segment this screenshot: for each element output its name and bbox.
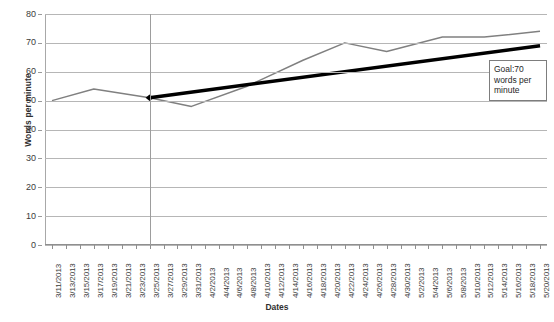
x-tick-label: 3/31/2013 — [195, 263, 203, 298]
x-tick-label: 4/8/2013 — [250, 268, 258, 298]
x-tick-label: 3/13/2013 — [69, 263, 77, 298]
gridline — [45, 101, 547, 102]
y-tick-mark — [38, 130, 42, 131]
y-tick-mark — [38, 245, 42, 246]
gridline — [45, 72, 547, 73]
y-tick-mark — [38, 158, 42, 159]
x-tick-label: 4/24/2013 — [362, 263, 370, 298]
x-tick-label: 4/18/2013 — [320, 263, 328, 298]
words-per-minute-line-chart: Words per minute 01020304050607080 3/11/… — [0, 0, 554, 322]
x-tick-label: 4/12/2013 — [278, 263, 286, 298]
x-tick-label: 3/17/2013 — [97, 263, 105, 298]
x-tick-label: 4/30/2013 — [404, 263, 412, 298]
gridline — [45, 14, 547, 15]
x-axis-tick-labels: 3/11/20133/13/20133/15/20133/17/20133/19… — [45, 249, 547, 301]
y-tick-label: 40 — [26, 125, 36, 134]
y-tick-label: 30 — [26, 154, 36, 163]
y-tick-label: 80 — [26, 10, 36, 19]
y-tick-label: 50 — [26, 96, 36, 105]
y-tick-mark — [38, 14, 42, 15]
x-tick-label: 4/14/2013 — [292, 263, 300, 298]
x-tick-label: 5/14/2013 — [501, 263, 509, 298]
y-tick-label: 0 — [31, 241, 36, 250]
x-tick-label: 3/15/2013 — [83, 263, 91, 298]
y-tick-mark — [38, 216, 42, 217]
gridline — [45, 216, 547, 217]
x-tick-label: 3/29/2013 — [181, 263, 189, 298]
x-tick-label: 3/19/2013 — [111, 263, 119, 298]
y-tick-mark — [38, 101, 42, 102]
x-tick-label: 5/4/2013 — [432, 268, 440, 298]
x-tick-label: 4/26/2013 — [376, 263, 384, 298]
x-tick-label: 4/20/2013 — [334, 263, 342, 298]
plot-area — [45, 14, 547, 245]
x-tick-label: 3/21/2013 — [125, 263, 133, 298]
x-tick-label: 5/6/2013 — [446, 268, 454, 298]
vertical-reference-line — [150, 14, 151, 245]
x-tick-label: 3/11/2013 — [55, 264, 63, 298]
y-tick-mark — [38, 72, 42, 73]
x-tick-label: 3/27/2013 — [167, 263, 175, 298]
y-tick-mark — [38, 187, 42, 188]
y-tick-label: 60 — [26, 67, 36, 76]
x-tick-label: 4/16/2013 — [306, 263, 314, 298]
gridline — [45, 187, 547, 188]
x-tick-label: 3/23/2013 — [139, 263, 147, 298]
y-tick-label: 10 — [26, 212, 36, 221]
goal-annotation-line-1: Goal:70 — [494, 64, 542, 75]
gridline — [45, 130, 547, 131]
x-tick-label: 5/18/2013 — [529, 263, 537, 298]
x-tick-label: 3/25/2013 — [153, 263, 161, 298]
goal-annotation-box: Goal:70 words per minute — [489, 60, 547, 101]
x-tick-label: 5/16/2013 — [515, 263, 523, 298]
x-tick-label: 5/2/2013 — [418, 268, 426, 298]
x-tick-label: 5/12/2013 — [487, 263, 495, 298]
goal-annotation-line-2: words per — [494, 75, 542, 86]
gridline — [45, 43, 547, 44]
x-tick-label: 5/10/2013 — [474, 263, 482, 298]
x-tick-label: 4/10/2013 — [264, 263, 272, 298]
y-tick-label: 70 — [26, 38, 36, 47]
y-tick-label: 20 — [26, 183, 36, 192]
x-axis-title: Dates — [0, 302, 554, 312]
gridline — [45, 158, 547, 159]
y-axis-tick-labels: 01020304050607080 — [0, 0, 42, 322]
x-tick-label: 4/4/2013 — [223, 268, 231, 298]
x-tick-label: 4/6/2013 — [236, 268, 244, 298]
x-tick-label: 5/8/2013 — [460, 268, 468, 298]
x-tick-label: 5/20/2013 — [543, 263, 551, 298]
y-tick-mark — [38, 43, 42, 44]
x-tick-label: 4/28/2013 — [390, 263, 398, 298]
goal-annotation-line-3: minute — [494, 85, 542, 96]
x-tick-label: 4/22/2013 — [348, 263, 356, 298]
x-tick-label: 4/2/2013 — [209, 268, 217, 298]
